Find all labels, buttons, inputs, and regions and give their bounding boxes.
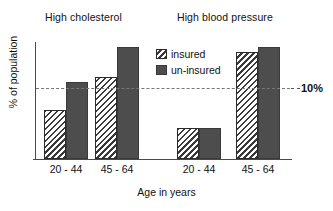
bar-insured-20-44: [177, 128, 199, 159]
bar-insured-45-64: [95, 77, 117, 159]
y-axis-title: % of population: [7, 16, 19, 128]
legend-item-uninsured: un-insured: [156, 63, 221, 77]
legend-label-uninsured: un-insured: [171, 64, 221, 76]
legend-label-insured: insured: [171, 48, 205, 60]
bar-un-insured-45-64: [117, 47, 139, 159]
reference-line-label: 10%: [301, 82, 323, 94]
reference-line-tail: [291, 88, 300, 89]
x-tick-label: 45 - 64: [87, 163, 147, 175]
bar-un-insured-45-64: [258, 47, 280, 159]
x-tick-label: 45 - 64: [228, 163, 288, 175]
x-axis-title: Age in years: [0, 186, 333, 198]
group-title-high-cholesterol: High cholesterol: [45, 11, 122, 23]
reference-line-10-percent: [36, 88, 290, 89]
bar-un-insured-20-44: [66, 82, 88, 159]
chart-legend: insured un-insured: [156, 47, 221, 79]
group-title-high-blood-pressure: High blood pressure: [177, 11, 273, 23]
x-axis-line: [33, 159, 292, 160]
bar-insured-20-44: [44, 110, 66, 159]
x-tick-label: 20 - 44: [169, 163, 229, 175]
bar-un-insured-20-44: [199, 128, 221, 159]
solid-dark-swatch-icon: [156, 65, 167, 75]
legend-item-insured: insured: [156, 47, 221, 61]
hatched-swatch-icon: [156, 49, 167, 59]
bar-chart: High cholesterol High blood pressure % o…: [0, 0, 333, 211]
bar-insured-45-64: [236, 52, 258, 159]
